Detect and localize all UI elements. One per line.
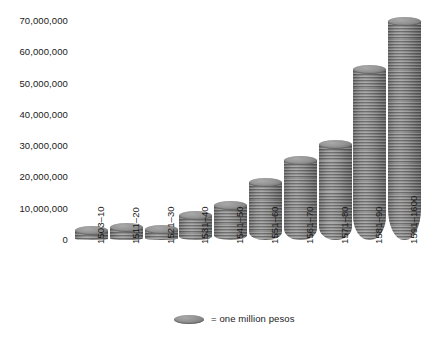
- y-axis-tick-label: 10,000,000: [19, 204, 68, 214]
- coin-stack-top-face: [284, 156, 317, 165]
- y-axis: 70,000,00060,000,00050,000,00040,000,000…: [0, 0, 74, 250]
- coin-stack-top-face: [249, 178, 282, 187]
- y-axis-tick-label: 40,000,000: [19, 110, 68, 120]
- y-axis-tick-label: 20,000,000: [19, 173, 68, 183]
- y-axis-tick-label: 0: [63, 235, 68, 245]
- y-axis-tick-label: 50,000,000: [19, 79, 68, 89]
- coin-stack-bar-chart: 70,000,00060,000,00050,000,00040,000,000…: [0, 0, 431, 338]
- chart-legend: = one million pesos: [174, 310, 295, 328]
- y-axis-tick-label: 70,000,000: [19, 16, 68, 26]
- plot-area: [74, 8, 422, 240]
- x-axis: 1503–101511–201521–301531–401541–501551–…: [74, 242, 422, 304]
- legend-label: = one million pesos: [211, 314, 295, 324]
- coin-icon: [174, 315, 204, 324]
- y-axis-tick-label: 30,000,000: [19, 141, 68, 151]
- y-axis-tick-label: 60,000,000: [19, 48, 68, 58]
- coin-stack-top-face: [388, 17, 421, 26]
